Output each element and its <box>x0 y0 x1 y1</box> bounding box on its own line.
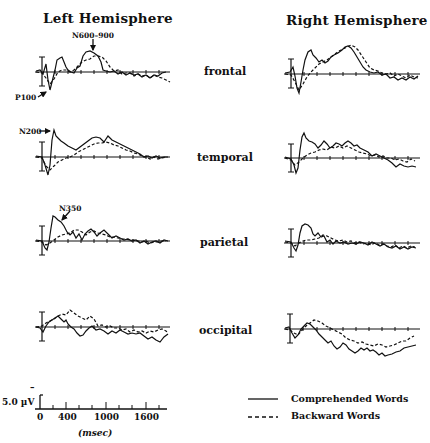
erp-plot-area <box>0 0 430 443</box>
legend-backward-label: Backward Words <box>291 410 380 421</box>
scale-unit-label: (msec) <box>78 428 112 438</box>
arrow-p100 <box>38 92 46 97</box>
panel-right-temporal <box>284 133 420 173</box>
panel-left-parietal <box>35 216 170 255</box>
scale-tick-0: 0 <box>37 412 43 422</box>
panel-left-frontal <box>35 51 170 90</box>
scale-tick-400: 400 <box>58 412 77 422</box>
legend-comprehended-label: Comprehended Words <box>291 393 408 404</box>
scale-amplitude-label: 5.0 µV <box>2 397 34 407</box>
scale-bar <box>35 395 167 409</box>
panel-left-occipital <box>35 310 170 342</box>
scale-tick-1600: 1600 <box>134 412 159 422</box>
scale-tick-1000: 1000 <box>94 412 119 422</box>
panel-right-parietal <box>284 224 420 257</box>
panel-right-occipital <box>284 314 420 356</box>
arrow-n350 <box>62 211 70 220</box>
panel-left-temporal <box>35 130 170 175</box>
scale-minus-sign: – <box>30 382 35 392</box>
panel-right-frontal <box>284 45 420 93</box>
